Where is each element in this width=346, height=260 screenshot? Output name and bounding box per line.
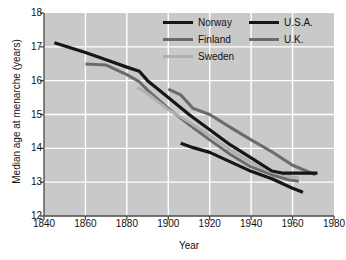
y-tick-label: 18 [18,8,42,18]
y-axis-title: Median age at menarche (years) [11,12,22,212]
data-series-group [54,43,317,193]
legend-row: FinlandU.K. [163,31,335,48]
x-axis-title: Year [44,240,334,251]
x-tick-label: 1920 [190,219,230,229]
legend-item: U.S.A. [249,18,335,28]
y-tick-label: 15 [18,110,42,120]
legend-label: Norway [198,18,232,28]
legend-label: Finland [198,35,231,45]
chart-legend: NorwayU.S.A.FinlandU.K.Sweden [163,14,335,65]
legend-label: U.K. [284,35,303,45]
legend-row: Sweden [163,48,335,65]
x-tick-label: 1980 [314,219,346,229]
y-tick-label: 13 [18,177,42,187]
legend-swatch-icon [249,38,279,41]
legend-item: Finland [163,35,249,45]
y-tick-label: 16 [18,76,42,86]
y-tick-label: 14 [18,143,42,153]
legend-item: U.K. [249,35,335,45]
x-tick-label: 1940 [231,219,271,229]
legend-swatch-icon [163,55,193,58]
legend-item: Norway [163,18,249,28]
legend-swatch-icon [163,38,193,41]
legend-item: Sweden [163,52,249,62]
x-tick-label: 1960 [273,219,313,229]
legend-swatch-icon [163,21,193,24]
x-tick-label: 1880 [107,219,147,229]
legend-label: Sweden [198,52,234,62]
y-tick-label: 17 [18,42,42,52]
legend-swatch-icon [249,21,279,24]
legend-row: NorwayU.S.A. [163,14,335,31]
chart-figure: 12131415161718 1840186018801900192019401… [0,0,346,260]
x-tick-label: 1860 [65,219,105,229]
x-tick-label: 1840 [24,219,64,229]
x-tick-label: 1900 [148,219,188,229]
legend-label: U.S.A. [284,18,313,28]
